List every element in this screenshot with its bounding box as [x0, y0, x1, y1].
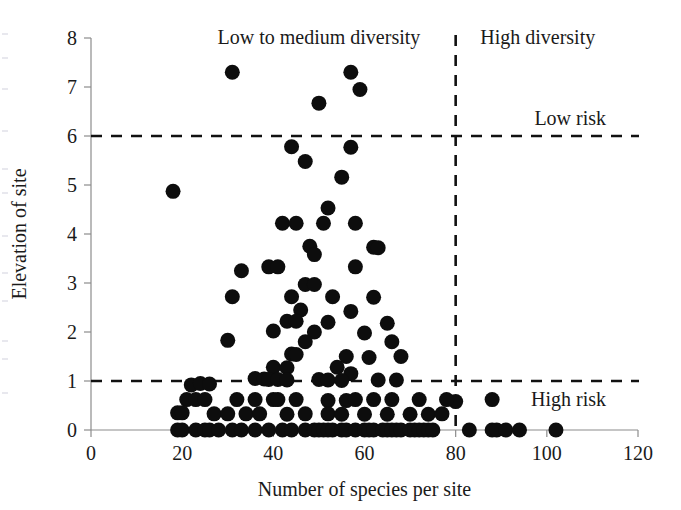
data-point	[321, 373, 336, 388]
data-point	[321, 201, 336, 216]
annotation-low-risk: Low risk	[534, 107, 606, 129]
data-point	[334, 170, 349, 185]
data-point	[211, 423, 226, 438]
data-point	[252, 406, 267, 421]
data-point	[280, 373, 295, 388]
data-point	[512, 423, 527, 438]
data-point	[348, 259, 363, 274]
y-tick-label: 7	[67, 76, 77, 98]
data-point	[248, 423, 263, 438]
data-point	[280, 407, 295, 422]
data-point	[238, 406, 253, 421]
data-point	[393, 349, 408, 364]
data-point	[234, 263, 249, 278]
data-point	[298, 334, 313, 349]
data-point	[175, 423, 190, 438]
data-point	[270, 259, 285, 274]
data-point	[225, 65, 240, 80]
data-point	[270, 392, 285, 407]
x-tick-label: 120	[623, 442, 653, 464]
y-tick-label: 5	[67, 174, 77, 196]
chart-canvas: 020406080100120012345678Number of specie…	[0, 0, 681, 510]
data-point	[462, 423, 477, 438]
data-point	[325, 289, 340, 304]
data-point	[343, 65, 358, 80]
data-point	[348, 216, 363, 231]
y-axis-title: Elevation of site	[8, 168, 30, 299]
data-point	[298, 154, 313, 169]
data-point	[307, 277, 322, 292]
y-tick-label: 3	[67, 272, 77, 294]
data-point	[202, 376, 217, 391]
axes-layer	[84, 38, 638, 437]
data-point	[316, 216, 331, 231]
data-point	[284, 423, 299, 438]
data-point	[321, 315, 336, 330]
data-point	[307, 247, 322, 262]
data-point	[284, 139, 299, 154]
data-point	[275, 216, 290, 231]
data-point	[334, 373, 349, 388]
x-tick-label: 80	[446, 442, 466, 464]
data-point	[366, 290, 381, 305]
annotation-high-diversity: High diversity	[480, 26, 595, 49]
data-point	[266, 324, 281, 339]
data-point	[343, 140, 358, 155]
data-point	[371, 373, 386, 388]
data-point	[343, 304, 358, 319]
y-tick-label: 6	[67, 125, 77, 147]
y-tick-label: 1	[67, 370, 77, 392]
data-point	[371, 240, 386, 255]
data-point	[384, 392, 399, 407]
x-tick-label: 60	[355, 442, 375, 464]
data-point	[421, 407, 436, 422]
scatter-plot-figure: 020406080100120012345678Number of specie…	[0, 0, 681, 510]
y-tick-label: 2	[67, 321, 77, 343]
data-point	[366, 392, 381, 407]
data-point	[334, 407, 349, 422]
x-tick-label: 20	[172, 442, 192, 464]
data-point	[439, 392, 454, 407]
data-point	[412, 392, 427, 407]
y-tick-label: 4	[67, 223, 77, 245]
data-point	[403, 407, 418, 422]
data-point	[197, 392, 212, 407]
data-point	[357, 325, 372, 340]
data-point	[380, 316, 395, 331]
data-point	[380, 407, 395, 422]
annotation-low-to-medium-diversity: Low to medium diversity	[218, 26, 421, 49]
data-point	[248, 392, 263, 407]
x-tick-label: 40	[263, 442, 283, 464]
data-point	[289, 216, 304, 231]
annotation-high-risk: High risk	[531, 388, 606, 411]
data-point	[289, 347, 304, 362]
data-point	[220, 406, 235, 421]
data-point	[330, 360, 345, 375]
data-point	[225, 289, 240, 304]
data-point	[362, 350, 377, 365]
data-point	[548, 423, 563, 438]
x-tick-label: 0	[86, 442, 96, 464]
data-point	[175, 405, 190, 420]
data-points-layer	[166, 65, 564, 438]
data-point	[384, 334, 399, 349]
data-point	[207, 406, 222, 421]
data-point	[284, 289, 299, 304]
data-point	[389, 373, 404, 388]
data-point	[166, 184, 181, 199]
data-point	[321, 406, 336, 421]
x-axis-title: Number of species per site	[258, 478, 471, 501]
data-point	[485, 392, 500, 407]
data-point	[298, 406, 313, 421]
data-point	[425, 423, 440, 438]
data-point	[498, 423, 513, 438]
data-point	[289, 392, 304, 407]
data-point	[321, 393, 336, 408]
x-tick-label: 100	[532, 442, 562, 464]
data-point	[311, 96, 326, 111]
data-point	[352, 82, 367, 97]
y-tick-label: 0	[67, 419, 77, 441]
data-point	[229, 392, 244, 407]
data-point	[348, 392, 363, 407]
y-tick-label: 8	[67, 27, 77, 49]
